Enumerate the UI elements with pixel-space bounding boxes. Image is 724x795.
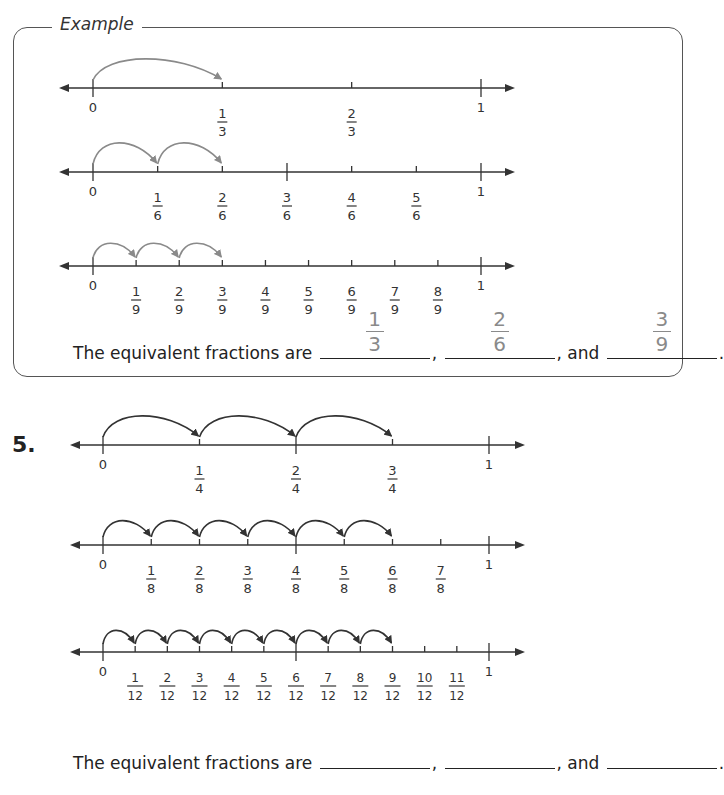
problem-number-line-fourths: 01424341: [70, 416, 525, 496]
left-arrow-icon: [59, 168, 69, 176]
left-arrow-icon: [59, 262, 69, 270]
tick-denominator: 12: [160, 689, 175, 703]
answer-blank-1[interactable]: [320, 750, 430, 769]
tick-numerator: 3: [244, 563, 252, 578]
left-arrow-icon: [59, 84, 69, 92]
left-arrow-icon: [70, 441, 80, 449]
tick-numerator: 6: [292, 671, 300, 685]
jump-arc-icon: [248, 521, 295, 537]
tick-denominator: 3: [348, 124, 356, 139]
tick-label: 0: [99, 457, 107, 472]
tick-numerator: 5: [412, 190, 420, 205]
tick-denominator: 6: [348, 208, 356, 223]
tick-denominator: 8: [195, 581, 203, 596]
tick-numerator: 5: [304, 284, 312, 299]
tick-numerator: 7: [391, 284, 399, 299]
tick-denominator: 9: [132, 302, 140, 317]
tick-numerator: 8: [434, 284, 442, 299]
tick-label: 1: [485, 457, 493, 472]
jump-arc-icon: [296, 521, 343, 537]
answer-fraction: 3 9: [607, 309, 717, 354]
tick-denominator: 12: [449, 689, 464, 703]
tick-numerator: 4: [228, 671, 236, 685]
tick-numerator: 10: [417, 671, 432, 685]
tick-numerator: 2: [164, 671, 172, 685]
example-answer-sentence: The equivalent fractions are 1 3 , 2 6 ,…: [73, 340, 724, 363]
tick-denominator: 8: [437, 581, 445, 596]
problem-number: 5.: [12, 432, 36, 457]
tick-numerator: 2: [175, 284, 183, 299]
tick-denominator: 4: [195, 481, 203, 496]
tick-denominator: 12: [288, 689, 303, 703]
tick-denominator: 3: [218, 124, 226, 139]
right-arrow-icon: [505, 262, 515, 270]
tick-denominator: 12: [128, 689, 143, 703]
tick-label: 1: [477, 100, 485, 115]
tick-numerator: 7: [437, 563, 445, 578]
right-arrow-icon: [515, 541, 525, 549]
tick-numerator: 1: [195, 463, 203, 478]
tick-numerator: 2: [292, 463, 300, 478]
tick-denominator: 8: [388, 581, 396, 596]
example-number-line-thirds: 013231: [59, 59, 515, 139]
tick-denominator: 9: [261, 302, 269, 317]
answer-blank-2[interactable]: [445, 750, 555, 769]
tick-numerator: 2: [195, 563, 203, 578]
left-arrow-icon: [70, 648, 80, 656]
tick-denominator: 6: [154, 208, 162, 223]
tick-denominator: 9: [218, 302, 226, 317]
jump-arc-icon: [328, 630, 359, 644]
answer-blank-3[interactable]: [607, 750, 717, 769]
example-answer-blank-3: 3 9: [607, 340, 717, 359]
jump-arc-icon: [93, 59, 221, 80]
tick-numerator: 1: [154, 190, 162, 205]
tick-numerator: 3: [388, 463, 396, 478]
tick-denominator: 4: [388, 481, 396, 496]
tick-denominator: 4: [292, 481, 300, 496]
example-answer-blank-2: 2 6: [445, 340, 555, 359]
tick-numerator: 9: [389, 671, 397, 685]
jump-arc-icon: [93, 243, 135, 258]
jump-arc-icon: [232, 630, 263, 644]
left-arrow-icon: [70, 541, 80, 549]
tick-label: 0: [89, 100, 97, 115]
jump-arc-icon: [296, 416, 392, 437]
jump-arc-icon: [200, 630, 231, 644]
problem-number-line-eighths: 0182838485868781: [70, 521, 525, 596]
jump-arc-icon: [103, 630, 134, 644]
tick-numerator: 2: [348, 106, 356, 121]
jump-arc-icon: [179, 243, 221, 258]
example-number-line-ninths: 019293949596979891: [59, 243, 515, 317]
jump-arc-icon: [136, 243, 178, 258]
jump-arc-icon: [103, 416, 199, 437]
tick-numerator: 6: [388, 563, 396, 578]
problem-answer-sentence: The equivalent fractions are , , and .: [73, 750, 724, 773]
jump-arc-icon: [360, 630, 391, 644]
tick-numerator: 1: [132, 284, 140, 299]
tick-label: 0: [99, 664, 107, 679]
tick-numerator: 3: [283, 190, 291, 205]
tick-numerator: 2: [218, 190, 226, 205]
tick-denominator: 12: [353, 689, 368, 703]
tick-numerator: 6: [348, 284, 356, 299]
sentence-prefix: The equivalent fractions are: [73, 343, 312, 363]
tick-numerator: 1: [147, 563, 155, 578]
tick-denominator: 9: [434, 302, 442, 317]
tick-numerator: 5: [260, 671, 268, 685]
tick-numerator: 7: [324, 671, 332, 685]
answer-fraction: 1 3: [320, 309, 430, 354]
tick-denominator: 12: [224, 689, 239, 703]
tick-label: 1: [485, 664, 493, 679]
jump-arc-icon: [200, 521, 247, 537]
right-arrow-icon: [515, 441, 525, 449]
tick-denominator: 6: [283, 208, 291, 223]
example-number-line-sixths: 016263646561: [59, 143, 515, 223]
tick-denominator: 9: [304, 302, 312, 317]
tick-denominator: 6: [218, 208, 226, 223]
jump-arc-icon: [103, 521, 150, 537]
tick-numerator: 1: [218, 106, 226, 121]
tick-numerator: 1: [131, 671, 139, 685]
sentence-prefix: The equivalent fractions are: [73, 753, 312, 773]
jump-arc-icon: [200, 416, 296, 437]
right-arrow-icon: [505, 168, 515, 176]
